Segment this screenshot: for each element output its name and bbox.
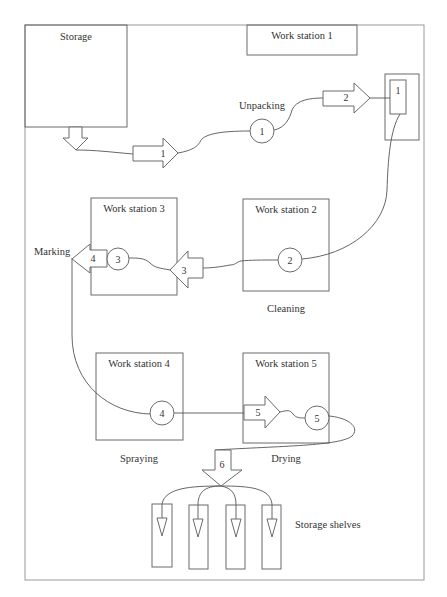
floor-plan-frame	[25, 25, 424, 580]
process-node-1: 1	[250, 119, 274, 143]
flow-transport-5-to-node-5	[280, 411, 305, 418]
flow-to-shelf-1	[162, 486, 221, 520]
svg-text:5: 5	[315, 413, 320, 424]
shelf-2	[189, 505, 208, 569]
work-station-5-label: Work station 5	[255, 358, 317, 369]
svg-text:1: 1	[260, 126, 265, 137]
flow-to-shelf-3	[221, 486, 236, 520]
process-node-4: 4	[150, 401, 174, 425]
flow-marking-to-node-4	[72, 258, 150, 414]
svg-text:1: 1	[161, 148, 166, 159]
svg-text:2: 2	[344, 92, 349, 103]
storage-shelves-label: Storage shelves	[295, 519, 361, 530]
transport-arrow-2: 2	[323, 83, 370, 113]
flow-transport-3-to-node-3	[129, 258, 170, 270]
shelf-3	[226, 505, 245, 569]
spraying-label: Spraying	[120, 453, 159, 464]
storage-output-arrow	[63, 127, 88, 150]
flow-to-shelf-2	[198, 486, 221, 520]
rack-label: 1	[396, 85, 401, 96]
work-station-3: Work station 3	[91, 198, 177, 295]
process-node-5: 5	[305, 406, 329, 430]
transport-arrow-1: 1	[133, 138, 178, 168]
svg-text:4: 4	[91, 253, 96, 264]
transport-arrow-3: 3	[170, 251, 203, 288]
shelf-4	[262, 505, 281, 569]
work-station-1-rack: 1	[385, 74, 419, 140]
flow-node-2-to-transport-3	[203, 260, 278, 268]
svg-text:4: 4	[160, 408, 165, 419]
process-flow-diagram: Storage Work station 1 1 Work station 2 …	[0, 0, 447, 597]
work-station-1-label: Work station 1	[271, 30, 333, 41]
storage-label: Storage	[60, 31, 92, 42]
svg-text:3: 3	[116, 254, 121, 265]
cleaning-label: Cleaning	[267, 303, 306, 314]
work-station-2-label: Work station 2	[255, 204, 317, 215]
transport-arrow-4: 4	[72, 244, 107, 273]
svg-text:2: 2	[288, 255, 293, 266]
drying-label: Drying	[271, 453, 301, 464]
work-station-1: Work station 1	[247, 25, 357, 55]
flow-storage-to-transport-1	[76, 150, 133, 154]
svg-text:5: 5	[256, 407, 261, 418]
flow-to-shelf-4	[221, 486, 272, 520]
work-station-2: Work station 2	[243, 199, 329, 291]
flow-transport-1-to-node-1	[178, 131, 250, 153]
work-station-4-label: Work station 4	[108, 358, 170, 369]
transport-arrow-5: 5	[244, 396, 280, 428]
storage-shelves: Storage shelves	[152, 504, 361, 569]
marking-label: Marking	[34, 246, 71, 257]
work-station-3-label: Work station 3	[103, 203, 165, 214]
process-node-3: 3	[107, 248, 129, 270]
work-station-4: Work station 4	[96, 353, 183, 440]
transport-arrow-6: 6	[202, 450, 242, 486]
svg-text:3: 3	[182, 265, 187, 276]
process-node-2: 2	[278, 248, 302, 272]
unpacking-label: Unpacking	[239, 100, 286, 111]
flow-node-5-to-transport-6	[215, 416, 355, 450]
svg-text:6: 6	[220, 459, 225, 470]
storage-area: Storage	[25, 25, 127, 127]
